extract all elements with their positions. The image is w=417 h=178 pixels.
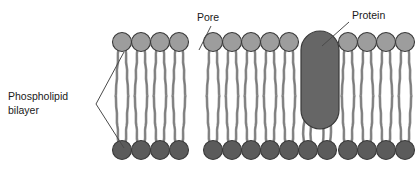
phospholipid-molecule [396,33,415,97]
phospholipid-molecule [132,96,151,160]
phospholipid-molecule [113,96,132,160]
phospholipid-molecule [358,96,377,160]
phospholipid-molecule [339,33,358,97]
left-lower-leaflet [113,96,189,160]
phospholipid-head [358,141,377,160]
phospholipid-head [151,33,170,52]
right-membrane-patch [204,31,415,160]
pore-label: Pore [197,11,219,23]
phospholipid-head [113,33,132,52]
phospholipid-head [204,141,223,160]
phospholipid-head [170,33,189,52]
phospholipid-molecule [223,33,242,97]
membrane-diagram: Phospholipid bilayer Pore Protein [0,0,417,178]
phospholipid-head [377,141,396,160]
phospholipid-head [132,141,151,160]
phospholipid-molecule [223,96,242,160]
phospholipid-molecule [151,33,170,97]
protein-label: Protein [352,9,385,21]
phospholipid-head [132,33,151,52]
phospholipid-head [113,141,132,160]
phospholipid-head [396,33,415,52]
phospholipid-head [170,141,189,160]
phospholipid-head [242,33,261,52]
bilayer-label-line2: bilayer [8,104,39,116]
phospholipid-head [151,141,170,160]
phospholipid-molecule [242,33,261,97]
phospholipid-molecule [261,96,280,160]
phospholipid-head [223,33,242,52]
phospholipid-head [358,33,377,52]
phospholipid-head [223,141,242,160]
phospholipid-head [280,33,299,52]
phospholipid-head [318,141,337,160]
membrane-diagram-canvas: Phospholipid bilayer Pore Protein [0,0,417,178]
phospholipid-head [377,33,396,52]
phospholipid-head [261,33,280,52]
phospholipid-molecule [170,96,189,160]
phospholipid-head [339,33,358,52]
bilayer-bracket [96,52,124,148]
phospholipid-molecule [204,96,223,160]
phospholipid-molecule [377,33,396,97]
phospholipid-molecule [280,96,299,160]
phospholipid-head [242,141,261,160]
phospholipid-molecule [113,33,132,97]
phospholipid-molecule [151,96,170,160]
phospholipid-molecule [242,96,261,160]
phospholipid-molecule [339,96,358,160]
phospholipid-molecule [170,33,189,97]
phospholipid-molecule [132,33,151,97]
phospholipid-head [396,141,415,160]
left-upper-leaflet [113,33,189,97]
left-membrane-patch [113,33,189,160]
phospholipid-molecule [396,96,415,160]
phospholipid-head [299,141,318,160]
phospholipid-molecule [377,96,396,160]
bilayer-label-line1: Phospholipid [8,90,68,102]
phospholipid-head [339,141,358,160]
phospholipid-molecule [280,33,299,97]
phospholipid-molecule [358,33,377,97]
phospholipid-molecule [261,33,280,97]
phospholipid-head [280,141,299,160]
phospholipid-molecule [204,33,223,97]
transmembrane-protein [301,31,339,129]
phospholipid-head [261,141,280,160]
